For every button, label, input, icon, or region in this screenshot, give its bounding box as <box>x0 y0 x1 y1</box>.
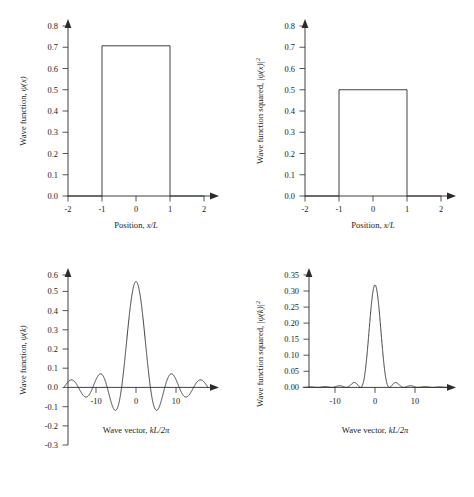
svg-text:0.8: 0.8 <box>285 22 295 31</box>
svg-text:0.0: 0.0 <box>48 383 58 392</box>
figure-wave-function-fourier-pairs: 0.0 0.1 0.2 0.3 0.4 0.5 0.6 0.7 0.8 -2 -… <box>0 0 474 497</box>
y-axis-group <box>302 19 309 196</box>
svg-text:0.30: 0.30 <box>284 287 299 296</box>
svg-text:1: 1 <box>168 205 172 214</box>
x-axis-label: Position, x/L <box>114 220 158 230</box>
svg-text:0.5: 0.5 <box>285 86 295 95</box>
svg-text:0.1: 0.1 <box>48 171 58 180</box>
y-tick-labels: 0.0 0.1 0.2 0.3 0.4 0.5 0.6 0.7 0.8 <box>48 22 59 201</box>
svg-text:0.0: 0.0 <box>48 192 58 201</box>
x-tick-labels: -2 -1 0 1 2 <box>65 205 207 214</box>
x-axis-label: Position, x/L <box>351 220 395 230</box>
svg-text:0.2: 0.2 <box>285 150 295 159</box>
y-axis-arrow-icon <box>306 268 313 277</box>
svg-text:10: 10 <box>411 397 419 406</box>
panel-wave-function-squared-position: 0.0 0.1 0.2 0.3 0.4 0.5 0.6 0.7 0.8 -2 -… <box>237 0 474 248</box>
panel-wave-function-wavevector: -0.3 -0.2 -0.1 0.0 0.1 0.2 0.3 0.4 0.5 0… <box>0 249 237 497</box>
svg-text:-10: -10 <box>329 397 340 406</box>
svg-text:0.6: 0.6 <box>48 271 58 280</box>
x-axis-arrow-icon <box>210 384 219 391</box>
svg-text:0.6: 0.6 <box>285 65 295 74</box>
svg-text:0.1: 0.1 <box>285 171 295 180</box>
x-axis-arrow-icon <box>447 384 456 391</box>
y-ticks <box>304 275 310 387</box>
svg-text:0.20: 0.20 <box>284 319 299 328</box>
svg-text:-0.1: -0.1 <box>45 403 58 412</box>
x-axis-arrow-icon <box>447 193 456 200</box>
x-ticks <box>305 196 441 202</box>
y-ticks <box>63 275 69 445</box>
svg-text:0.5: 0.5 <box>48 287 58 296</box>
svg-text:-2: -2 <box>302 205 309 214</box>
svg-text:2: 2 <box>202 205 206 214</box>
svg-text:-2: -2 <box>65 205 72 214</box>
sinc-squared-curve <box>303 285 447 387</box>
y-tick-labels: -0.3 -0.2 -0.1 0.0 0.1 0.2 0.3 0.4 0.5 0… <box>45 271 59 450</box>
y-axis-group <box>65 268 72 445</box>
x-tick-labels: -10 0 10 <box>329 397 419 406</box>
x-tick-labels: -10 0 10 <box>90 397 180 406</box>
panel-wave-function-position: 0.0 0.1 0.2 0.3 0.4 0.5 0.6 0.7 0.8 -2 -… <box>0 0 237 248</box>
svg-text:0.3: 0.3 <box>48 326 58 335</box>
svg-text:0.2: 0.2 <box>48 345 58 354</box>
x-axis-group <box>68 384 219 391</box>
svg-text:0.7: 0.7 <box>285 43 295 52</box>
svg-text:0: 0 <box>373 397 377 406</box>
svg-text:0.4: 0.4 <box>285 107 296 116</box>
y-tick-labels: 0.00 0.05 0.10 0.15 0.20 0.25 0.30 0.35 <box>284 271 299 392</box>
svg-text:0.10: 0.10 <box>284 351 299 360</box>
svg-text:-1: -1 <box>99 205 106 214</box>
y-axis-group <box>306 268 313 387</box>
svg-text:-1: -1 <box>336 205 343 214</box>
svg-text:0.4: 0.4 <box>48 107 59 116</box>
y-axis-arrow-icon <box>65 268 72 277</box>
svg-text:0.00: 0.00 <box>284 383 299 392</box>
x-axis-label: Wave vector, kL/2π <box>103 425 170 435</box>
svg-text:0.0: 0.0 <box>285 192 295 201</box>
y-axis-label: Wave function squared, |ψ(k)|2 <box>254 301 265 407</box>
x-axis-arrow-icon <box>210 193 219 200</box>
svg-text:1: 1 <box>405 205 409 214</box>
x-tick-labels: -2 -1 0 1 2 <box>302 205 444 214</box>
svg-text:0.15: 0.15 <box>284 335 299 344</box>
x-axis-label: Wave vector, kL/2π <box>342 425 409 435</box>
panel-wave-function-squared-wavevector: 0.00 0.05 0.10 0.15 0.20 0.25 0.30 0.35 … <box>237 249 474 497</box>
y-axis-label: Wave function, ψ(x) <box>18 76 28 145</box>
y-axis-label: Wave function squared, |ψ(x)|2 <box>254 58 265 164</box>
svg-text:0.3: 0.3 <box>285 128 295 137</box>
x-ticks <box>68 196 204 202</box>
svg-text:-10: -10 <box>90 397 101 406</box>
y-tick-labels: 0.0 0.1 0.2 0.3 0.4 0.5 0.6 0.7 0.8 <box>285 22 296 201</box>
svg-text:-0.2: -0.2 <box>45 422 58 431</box>
y-ticks <box>300 26 306 196</box>
svg-text:0.3: 0.3 <box>48 128 58 137</box>
svg-text:0.05: 0.05 <box>284 367 299 376</box>
svg-text:0.5: 0.5 <box>48 86 58 95</box>
y-axis-label: Wave function, ψ(k) <box>18 325 28 394</box>
svg-text:2: 2 <box>439 205 443 214</box>
x-ticks <box>335 387 415 393</box>
svg-text:-0.3: -0.3 <box>45 441 58 450</box>
tophat-squared-curve <box>305 90 441 196</box>
svg-text:0: 0 <box>371 205 375 214</box>
svg-text:0: 0 <box>134 397 138 406</box>
svg-text:0.1: 0.1 <box>48 364 58 373</box>
y-axis-arrow-icon <box>302 19 309 28</box>
y-axis-arrow-icon <box>65 19 72 28</box>
tophat-curve <box>68 46 204 196</box>
y-axis-group <box>65 19 72 196</box>
svg-text:0.6: 0.6 <box>48 65 58 74</box>
svg-text:0.25: 0.25 <box>284 303 299 312</box>
svg-text:0.7: 0.7 <box>48 43 58 52</box>
svg-text:0.4: 0.4 <box>48 307 59 316</box>
svg-text:10: 10 <box>172 397 180 406</box>
svg-text:0: 0 <box>134 205 138 214</box>
svg-text:0.8: 0.8 <box>48 22 58 31</box>
svg-text:0.2: 0.2 <box>48 150 58 159</box>
y-ticks <box>63 26 69 196</box>
svg-text:0.35: 0.35 <box>284 271 299 280</box>
